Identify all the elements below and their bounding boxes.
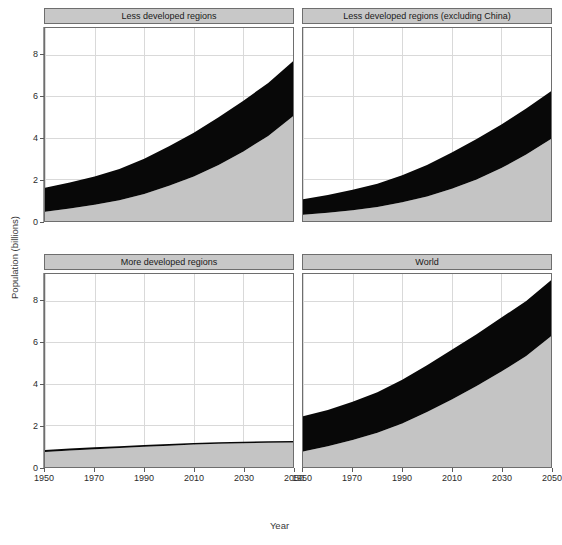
x-tick-label: 2010 <box>184 473 204 483</box>
plot-area <box>44 273 294 468</box>
x-tick-mark <box>302 468 303 472</box>
x-tick-label: 2030 <box>234 473 254 483</box>
panel-title: World <box>415 258 438 267</box>
x-tick-mark <box>452 468 453 472</box>
x-tick-label: 2010 <box>442 473 462 483</box>
gridline-vertical <box>293 274 294 467</box>
y-tick-label: 0 <box>33 463 38 473</box>
x-tick-mark <box>402 468 403 472</box>
y-tick-label: 8 <box>33 295 38 305</box>
panel-title: Less developed regions (excluding China) <box>343 12 511 21</box>
panel-title: Less developed regions <box>121 12 216 21</box>
y-axis: 02468 <box>24 273 44 468</box>
x-tick-mark <box>352 468 353 472</box>
stacked-area-series <box>45 274 293 467</box>
plot-inner <box>45 274 293 467</box>
plot-inner <box>303 274 551 467</box>
x-tick-label: 2030 <box>492 473 512 483</box>
y-tick-label: 4 <box>33 133 38 143</box>
panel-more-developed-regions: More developed regions 02468 19501970199… <box>44 254 294 490</box>
y-tick-label: 2 <box>33 175 38 185</box>
x-tick-label: 1990 <box>134 473 154 483</box>
x-tick-mark <box>294 468 295 472</box>
y-tick-label: 6 <box>33 91 38 101</box>
x-tick-mark <box>44 468 45 472</box>
y-tick-label: 2 <box>33 421 38 431</box>
panel-grid: Less developed regions 02468 19501970199… <box>44 8 552 490</box>
x-axis: 195019701990201020302050 <box>302 468 552 490</box>
x-tick-mark <box>94 468 95 472</box>
x-tick-label: 1990 <box>392 473 412 483</box>
plot-inner <box>45 28 293 221</box>
panel-world: World 02468 195019701990201020302050 <box>302 254 552 490</box>
x-axis: 195019701990201020302050 <box>302 222 552 248</box>
x-tick-label: 1950 <box>292 473 312 483</box>
y-tick-label: 6 <box>33 337 38 347</box>
stacked-area-series <box>303 28 551 221</box>
plot-area <box>302 27 552 222</box>
panel-less-developed-regions: Less developed regions 02468 19501970199… <box>44 8 294 248</box>
panel-strip-header: Less developed regions <box>44 8 294 24</box>
x-axis-title: Year <box>0 520 559 531</box>
gridline-vertical <box>293 28 294 221</box>
gridline-vertical <box>551 28 552 221</box>
x-tick-mark <box>502 468 503 472</box>
x-tick-mark <box>552 468 553 472</box>
y-tick-label: 4 <box>33 379 38 389</box>
plot-inner <box>303 28 551 221</box>
gridline-vertical <box>551 274 552 467</box>
plot-area <box>302 273 552 468</box>
panel-less-developed-regions-excluding-china: Less developed regions (excluding China)… <box>302 8 552 248</box>
x-tick-label: 1950 <box>34 473 54 483</box>
x-axis: 195019701990201020302050 <box>44 468 294 490</box>
y-tick-label: 0 <box>33 217 38 227</box>
clipped-header-text <box>0 0 559 3</box>
plot-area <box>44 27 294 222</box>
x-axis: 195019701990201020302050 <box>44 222 294 248</box>
x-tick-mark <box>244 468 245 472</box>
x-tick-label: 2050 <box>542 473 562 483</box>
y-tick-label: 8 <box>33 49 38 59</box>
panel-title: More developed regions <box>121 258 218 267</box>
panel-strip-header: Less developed regions (excluding China) <box>302 8 552 24</box>
area-rural <box>45 443 293 467</box>
x-tick-mark <box>144 468 145 472</box>
y-axis-title: Population (billions) <box>9 188 20 328</box>
x-tick-mark <box>194 468 195 472</box>
y-axis: 02468 <box>24 27 44 222</box>
stacked-area-series <box>45 28 293 221</box>
x-tick-label: 1970 <box>84 473 104 483</box>
panel-strip-header: World <box>302 254 552 270</box>
panel-strip-header: More developed regions <box>44 254 294 270</box>
x-tick-label: 1970 <box>342 473 362 483</box>
stacked-area-series <box>303 274 551 467</box>
